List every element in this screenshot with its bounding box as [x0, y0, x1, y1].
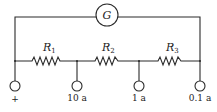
terminal-1a: 1 a [132, 61, 147, 103]
terminal-0.1a: 0.1 a [189, 61, 212, 103]
svg-text:+: + [11, 94, 19, 104]
top-wire-right [118, 17, 200, 61]
main-wire [15, 57, 200, 65]
svg-text:1 a: 1 a [132, 93, 147, 103]
terminal-plus: + [10, 61, 20, 104]
resistor-r3-label: R3 [165, 41, 179, 55]
svg-text:0.1 a: 0.1 a [189, 93, 212, 103]
resistor-r2-label: R2 [101, 41, 115, 55]
svg-text:10 a: 10 a [67, 93, 87, 103]
resistor-r1-label: R1 [42, 41, 56, 55]
galvanometer-label: G [103, 9, 112, 22]
circuit-diagram: G R1 R2 R3 + 10 a 1 a 0.1 a [0, 0, 217, 112]
galvanometer: G [96, 4, 118, 26]
terminal-10a: 10 a [67, 61, 87, 103]
